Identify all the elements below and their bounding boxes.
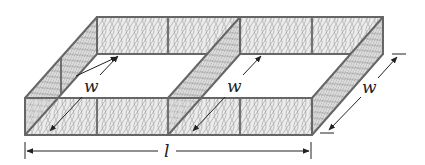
front-fence-panel [25,98,312,135]
width-label-middle: w [227,76,242,96]
width-label-right: w [362,77,377,97]
length-dimension: l [25,141,311,161]
length-label: l [164,141,169,161]
fenced-enclosure-diagram: w w w l [0,0,425,165]
width-label-left: w [84,76,99,96]
